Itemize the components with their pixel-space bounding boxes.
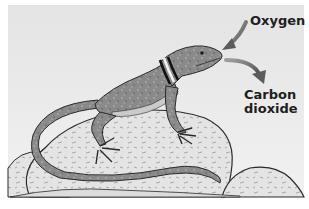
carbon-dioxide-label-line1: Carbon (244, 88, 298, 102)
carbon-dioxide-label: Carbon dioxide (244, 88, 298, 116)
oxygen-label: Oxygen (250, 14, 305, 28)
carbon-dioxide-label-line2: dioxide (244, 102, 298, 116)
lizard-eye (200, 51, 204, 55)
